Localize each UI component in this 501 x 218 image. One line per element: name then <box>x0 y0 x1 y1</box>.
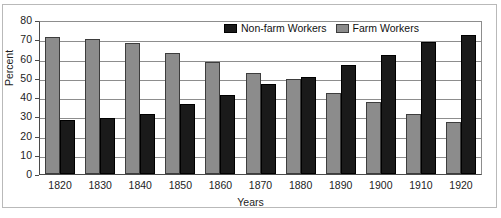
bar-farm-workers-1880 <box>286 79 301 174</box>
bar-farm-workers-1870 <box>246 73 261 174</box>
bar-non-farm-workers-1890 <box>341 65 356 174</box>
y-tick-mark <box>35 21 39 22</box>
bar-non-farm-workers-1910 <box>421 42 436 174</box>
x-tick-label: 1860 <box>200 179 240 191</box>
y-tick-label: 10 <box>20 150 32 161</box>
bar-non-farm-workers-1840 <box>140 114 155 174</box>
bar-non-farm-workers-1920 <box>461 35 476 174</box>
bar-group-1820 <box>40 21 80 174</box>
y-axis-title: Percent <box>3 28 15 108</box>
bar-group-1920 <box>441 21 481 174</box>
y-tick-label: 50 <box>20 73 32 84</box>
legend-label: Non-farm Workers <box>241 23 327 34</box>
y-tick-label: 30 <box>20 111 32 122</box>
bar-farm-workers-1820 <box>45 37 60 174</box>
bar-farm-workers-1910 <box>406 114 421 174</box>
y-tick-mark <box>35 175 39 176</box>
x-tick-label: 1850 <box>160 179 200 191</box>
bar-farm-workers-1860 <box>205 62 220 174</box>
y-tick-label: 60 <box>20 54 32 65</box>
y-tick-label: 0 <box>26 169 32 180</box>
x-tick-label: 1900 <box>361 179 401 191</box>
bar-group-1880 <box>281 21 321 174</box>
bar-group-1860 <box>200 21 240 174</box>
y-tick-mark <box>35 40 39 41</box>
x-axis-title: Years <box>0 196 501 208</box>
dark-swatch-icon <box>224 24 237 33</box>
bar-farm-workers-1830 <box>85 39 100 174</box>
y-tick-mark <box>35 79 39 80</box>
x-tick-label: 1920 <box>441 179 481 191</box>
bar-group-1870 <box>240 21 280 174</box>
bar-group-1900 <box>361 21 401 174</box>
y-tick-mark <box>35 60 39 61</box>
bar-non-farm-workers-1880 <box>301 77 316 174</box>
legend-item-farm-workers: Farm Workers <box>336 23 419 34</box>
bar-chart-figure: 80 70 60 50 40 30 20 10 0 Percent 182018… <box>0 0 501 218</box>
y-tick-label: 70 <box>20 34 32 45</box>
bar-group-1840 <box>120 21 160 174</box>
bar-non-farm-workers-1900 <box>381 55 396 174</box>
x-tick-label: 1880 <box>281 179 321 191</box>
y-tick-mark <box>35 98 39 99</box>
x-tick-label: 1840 <box>120 179 160 191</box>
x-tick-label: 1870 <box>240 179 280 191</box>
legend-label: Farm Workers <box>353 23 419 34</box>
bar-farm-workers-1920 <box>446 122 461 174</box>
bar-group-1890 <box>321 21 361 174</box>
gray-swatch-icon <box>336 24 349 33</box>
x-tick-label: 1820 <box>40 179 80 191</box>
x-axis-labels: 1820183018401850186018701880189019001910… <box>40 179 481 191</box>
x-tick-label: 1830 <box>80 179 120 191</box>
bar-group-1850 <box>160 21 200 174</box>
bar-group-1830 <box>80 21 120 174</box>
y-tick-label: 80 <box>20 15 32 26</box>
bar-non-farm-workers-1860 <box>220 95 235 174</box>
bar-non-farm-workers-1850 <box>180 104 195 174</box>
bar-non-farm-workers-1870 <box>261 84 276 174</box>
bar-farm-workers-1850 <box>165 53 180 174</box>
x-tick-label: 1890 <box>321 179 361 191</box>
bar-farm-workers-1890 <box>326 93 341 174</box>
x-tick-label: 1910 <box>401 179 441 191</box>
y-tick-mark <box>35 137 39 138</box>
bar-non-farm-workers-1820 <box>60 120 75 174</box>
bar-non-farm-workers-1830 <box>100 118 115 174</box>
y-tick-mark <box>35 156 39 157</box>
y-tick-label: 40 <box>20 92 32 103</box>
bar-farm-workers-1900 <box>366 102 381 174</box>
bar-group-1910 <box>401 21 441 174</box>
y-tick-label: 20 <box>20 131 32 142</box>
bar-groups <box>40 21 481 174</box>
y-tick-mark <box>35 117 39 118</box>
chart-legend: Non-farm Workers Farm Workers <box>222 22 421 35</box>
bar-farm-workers-1840 <box>125 43 140 174</box>
legend-item-non-farm-workers: Non-farm Workers <box>224 23 327 34</box>
